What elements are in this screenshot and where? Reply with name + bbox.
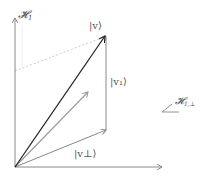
v-perp-label: |v⊥⟩ xyxy=(74,148,96,160)
vector-decomposition-diagram: 𝓗1 |v⟩ |v₁⟩ |v⊥⟩ 𝓗1,⊥ xyxy=(0,0,204,176)
vertical-axis-label: 𝓗1 xyxy=(18,8,33,22)
v-label: |v⟩ xyxy=(89,20,102,32)
plane-label: 𝓗1,⊥ xyxy=(175,95,195,107)
v1-label: |v₁⟩ xyxy=(110,76,127,88)
dotted-projection-line xyxy=(15,37,104,71)
